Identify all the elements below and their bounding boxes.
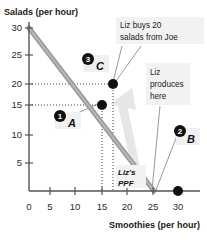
point-label-a: A [67, 117, 76, 129]
badge-2: 2 [178, 127, 183, 136]
x-tick-20: 20 [122, 201, 133, 212]
buy-note-line-1: Liz buys 20 [120, 21, 162, 30]
y-tick-15: 15 [11, 99, 22, 110]
ppf-note-line-1: Liz's [118, 168, 136, 177]
x-tick-10: 10 [70, 201, 81, 212]
point-label-b: B [187, 133, 195, 145]
ppf-note-line-2: PPF [118, 179, 135, 188]
x-tick-30: 30 [173, 201, 184, 212]
x-tick-15: 15 [97, 201, 108, 212]
buy-note-line-2: salads from Joe [120, 33, 178, 42]
point-b-marker: 2 B [174, 125, 200, 145]
x-tick-25: 25 [148, 201, 159, 212]
y-tick-25: 25 [11, 49, 22, 60]
y-tick-30: 30 [11, 22, 22, 33]
y-tick-5: 5 [17, 157, 22, 168]
y-tick-20: 20 [11, 78, 22, 89]
produce-note-line-1: Liz [150, 68, 160, 77]
badge-1: 1 [58, 112, 63, 121]
x-tick-5: 5 [47, 201, 52, 212]
point-label-c: C [96, 60, 105, 72]
produce-note-line-2: produces [150, 80, 184, 89]
point-c-marker: 3 C [82, 53, 109, 72]
data-point-a[interactable] [97, 100, 107, 110]
shift-arrow [110, 88, 141, 174]
point-a-marker: 1 A [54, 110, 81, 129]
y-tick-10: 10 [11, 129, 22, 140]
data-point-c[interactable] [108, 79, 118, 89]
data-point-b[interactable] [173, 186, 183, 196]
badge-3: 3 [86, 55, 91, 64]
produce-note-line-3: here [150, 92, 167, 101]
x-tick-0: 0 [26, 201, 31, 212]
guide-lines [29, 84, 113, 191]
y-axis-title: Salads (per hour) [4, 7, 78, 17]
ppf-chart: Salads (per hour) [0, 0, 207, 240]
x-axis-title: Smoothies (per hour) [109, 220, 200, 230]
